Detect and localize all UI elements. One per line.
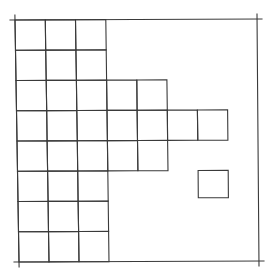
- grid-cell: [76, 80, 107, 110]
- grid-cell: [107, 141, 137, 171]
- grid-cell: [45, 20, 76, 50]
- grid-cell: [77, 110, 108, 140]
- grid-cell: [79, 231, 109, 261]
- grid-cell: [137, 80, 168, 110]
- grid-cell: [16, 50, 47, 80]
- outer-bottom-edge: [14, 261, 264, 262]
- grid-diagram: [0, 0, 279, 275]
- outer-right-edge: [257, 14, 259, 266]
- grid-cell: [77, 141, 108, 171]
- grid-cell: [17, 111, 48, 141]
- grid-cell: [49, 232, 80, 262]
- outer-top-edge: [10, 19, 262, 20]
- grid-cell: [197, 110, 228, 140]
- grid-cell: [47, 111, 78, 141]
- grid-cell: [47, 141, 78, 171]
- grid-cell: [107, 110, 138, 140]
- isolated-cells: [198, 170, 228, 197]
- grid-cell: [18, 201, 49, 231]
- isolated-cell: [198, 170, 228, 197]
- grid-cell: [46, 50, 77, 80]
- grid-cell: [107, 80, 138, 110]
- grid-cell: [78, 201, 109, 231]
- grid-cell: [78, 171, 109, 201]
- grid-cell: [138, 140, 169, 170]
- grid-cell: [18, 171, 49, 201]
- grid-cell: [19, 232, 50, 262]
- grid-cell: [48, 201, 79, 231]
- grid-cell: [15, 20, 46, 50]
- grid-cell: [137, 110, 168, 140]
- grid-cell: [46, 80, 77, 110]
- grid-cell: [167, 110, 198, 140]
- grid-cell: [16, 80, 47, 110]
- grid-cell: [76, 50, 107, 80]
- grid-cell: [76, 20, 107, 50]
- grid-cell: [17, 141, 48, 171]
- grid-cell: [48, 171, 79, 201]
- grid-cells: [15, 20, 228, 262]
